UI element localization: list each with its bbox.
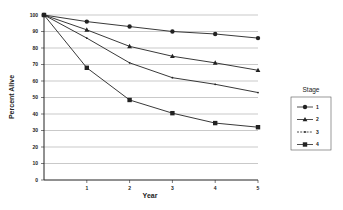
legend-label: 4	[316, 141, 319, 147]
circle-marker	[213, 32, 217, 36]
circle-marker	[303, 105, 307, 109]
legend-label: 2	[316, 116, 319, 122]
y-tick-label: 0	[35, 177, 38, 183]
square-marker	[127, 98, 131, 102]
legend-label: 3	[316, 129, 319, 135]
y-tick-label: 20	[32, 144, 38, 150]
y-tick-label: 90	[32, 28, 38, 34]
y-tick-label: 30	[32, 127, 38, 133]
y-axis-ticks: 0102030405060708090100	[30, 12, 44, 183]
legend-box	[291, 97, 331, 150]
square-marker	[85, 66, 89, 70]
dot-marker	[129, 62, 131, 64]
square-marker	[42, 13, 46, 17]
square-marker	[256, 125, 260, 129]
y-tick-label: 50	[32, 94, 38, 100]
x-axis-label: Year	[143, 192, 158, 199]
y-axis-label: Percent Alive	[8, 75, 15, 119]
legend: Stage 1234	[291, 86, 331, 150]
y-tick-label: 80	[32, 45, 38, 51]
legend-title: Stage	[303, 86, 320, 94]
circle-marker	[85, 19, 89, 23]
gridlines	[44, 15, 258, 164]
circle-marker	[170, 29, 174, 33]
dot-marker	[257, 92, 259, 94]
x-tick-label: 4	[214, 185, 217, 191]
y-tick-label: 60	[32, 78, 38, 84]
y-tick-label: 100	[30, 12, 39, 18]
series-stage-4	[42, 13, 260, 130]
x-tick-label: 1	[85, 185, 88, 191]
x-tick-label: 2	[128, 185, 131, 191]
x-axis-ticks: 12345	[85, 180, 259, 191]
series-stage-2	[42, 12, 261, 72]
square-marker	[213, 121, 217, 125]
survival-line-chart: 0102030405060708090100 12345 Year Percen…	[0, 0, 343, 210]
series-stage-1	[42, 13, 260, 41]
data-series	[42, 12, 261, 129]
legend-label: 1	[316, 104, 319, 110]
square-marker	[303, 142, 307, 146]
circle-marker	[256, 36, 260, 40]
circle-marker	[127, 24, 131, 28]
y-tick-label: 40	[32, 111, 38, 117]
dot-marker	[86, 37, 88, 39]
square-marker	[170, 111, 174, 115]
dot-marker	[214, 83, 216, 85]
y-tick-label: 70	[32, 61, 38, 67]
dot-marker	[304, 131, 306, 133]
x-tick-label: 5	[257, 185, 260, 191]
dot-marker	[172, 77, 174, 79]
x-tick-label: 3	[171, 185, 174, 191]
y-tick-label: 10	[32, 160, 38, 166]
